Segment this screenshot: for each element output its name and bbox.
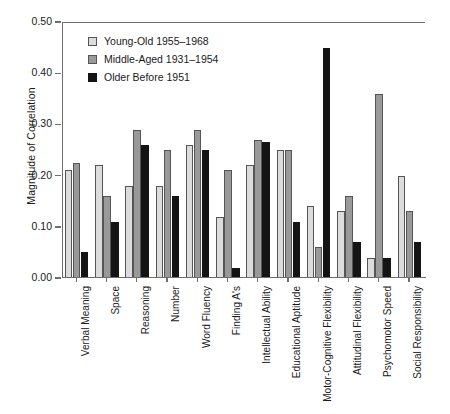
y-tick-mark <box>55 277 61 278</box>
bar <box>307 206 314 278</box>
x-axis-tick <box>348 277 349 282</box>
bar <box>246 165 253 278</box>
x-axis-tick <box>318 277 319 282</box>
bar <box>406 211 413 278</box>
y-tick-label: 0.00 <box>16 271 52 283</box>
y-tick-label: 0.30 <box>16 117 52 129</box>
x-axis-label: Motor-Cognitive Flexibility <box>322 286 333 402</box>
legend-swatch-middle-aged <box>88 55 97 64</box>
legend-item: Older Before 1951 <box>88 69 218 85</box>
x-axis-tick <box>287 277 288 282</box>
bar-group <box>277 22 300 278</box>
bar <box>367 258 374 278</box>
bar-group <box>367 22 390 278</box>
bar <box>73 163 80 278</box>
x-axis-tick <box>408 277 409 282</box>
bar <box>141 145 148 278</box>
x-axis-label: Space <box>110 286 121 315</box>
x-axis-label: Attitudinal Flexibility <box>352 286 363 375</box>
bar <box>285 150 292 278</box>
x-axis-tick <box>106 277 107 282</box>
legend-swatch-older <box>88 73 97 82</box>
y-tick-label: 0.40 <box>16 66 52 78</box>
bar <box>375 94 382 278</box>
bar-group <box>337 22 360 278</box>
bar <box>254 140 261 278</box>
x-axis-tick <box>227 277 228 282</box>
y-tick-label: 0.50 <box>16 15 52 27</box>
x-axis-label: Finding A's <box>231 286 242 335</box>
bar <box>383 258 390 278</box>
bar-group <box>246 22 269 278</box>
legend-label: Young-Old 1955–1968 <box>104 35 209 47</box>
x-axis-label: Word Fluency <box>201 286 212 348</box>
bar <box>156 186 163 278</box>
bar-group <box>307 22 330 278</box>
bar <box>414 242 421 278</box>
bar <box>133 130 140 278</box>
bar <box>216 217 223 278</box>
bar-chart-figure: Magnitude of Correlation 0.000.100.200.3… <box>0 0 450 414</box>
bar <box>337 211 344 278</box>
bar <box>111 222 118 278</box>
bar <box>202 150 209 278</box>
legend-item: Middle-Aged 1931–1954 <box>88 51 218 67</box>
bar <box>323 48 330 278</box>
x-axis-tick <box>76 277 77 282</box>
bar <box>81 252 88 278</box>
bar <box>65 170 72 278</box>
legend-swatch-young-old <box>88 37 97 46</box>
x-axis-label: Social Responsibility <box>412 286 423 379</box>
bar <box>103 196 110 278</box>
x-axis-line <box>62 277 426 278</box>
y-tick-label: 0.20 <box>16 169 52 181</box>
y-tick-mark <box>55 226 61 227</box>
x-axis-tick <box>378 277 379 282</box>
bar <box>315 247 322 278</box>
bar <box>194 130 201 278</box>
bar <box>172 196 179 278</box>
chart-legend: Young-Old 1955–1968 Middle-Aged 1931–195… <box>88 33 218 87</box>
bar-group <box>398 22 421 278</box>
bar <box>164 150 171 278</box>
legend-label: Middle-Aged 1931–1954 <box>104 53 218 65</box>
x-axis-label: Verbal Meaning <box>80 286 91 356</box>
bar <box>398 176 405 278</box>
x-axis-tick <box>166 277 167 282</box>
bar <box>125 186 132 278</box>
bar <box>353 242 360 278</box>
x-axis-tick <box>257 277 258 282</box>
x-axis-label: Intellectual Ability <box>261 286 272 364</box>
bar <box>262 142 269 278</box>
y-tick-mark <box>55 21 61 22</box>
bar <box>277 150 284 278</box>
x-axis-label: Educational Aptitude <box>291 286 302 378</box>
legend-item: Young-Old 1955–1968 <box>88 33 218 49</box>
y-tick-mark <box>55 73 61 74</box>
bar <box>95 165 102 278</box>
bar-group <box>216 22 239 278</box>
x-axis-tick <box>197 277 198 282</box>
x-axis-tick <box>136 277 137 282</box>
y-tick-mark <box>55 175 61 176</box>
bar <box>345 196 352 278</box>
y-tick-label: 0.10 <box>16 220 52 232</box>
x-axis-label: Reasoning <box>140 286 151 334</box>
bar <box>293 222 300 278</box>
legend-label: Older Before 1951 <box>104 71 190 83</box>
y-tick-mark <box>55 124 61 125</box>
bar <box>224 170 231 278</box>
bar-group <box>65 22 88 278</box>
bar <box>186 145 193 278</box>
x-axis-label: Number <box>170 286 181 322</box>
x-axis-label: Psychomotor Speed <box>382 286 393 377</box>
